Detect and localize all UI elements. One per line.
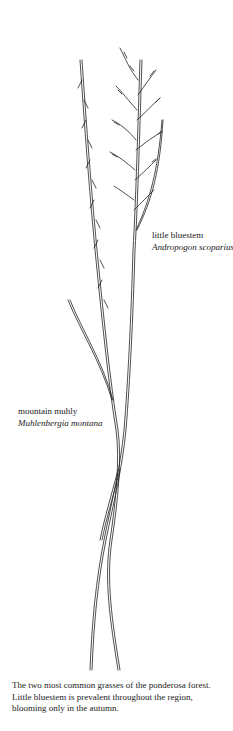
mountain-muhly-scientific-name: Muhlenbergia montana	[18, 417, 102, 429]
little-bluestem-scientific-name: Andropogon scoparius	[152, 241, 233, 253]
little-bluestem-drawing	[90, 48, 163, 670]
figure-caption: The two most common grasses of the ponde…	[12, 680, 212, 715]
grass-illustration	[0, 0, 233, 680]
little-bluestem-common-name: little bluestem	[152, 229, 233, 241]
label-mountain-muhly: mountain muhly Muhlenbergia montana	[18, 405, 102, 429]
label-little-bluestem: little bluestem Andropogon scoparius	[152, 229, 233, 253]
mountain-muhly-common-name: mountain muhly	[18, 405, 102, 417]
mountain-muhly-drawing	[68, 60, 120, 670]
